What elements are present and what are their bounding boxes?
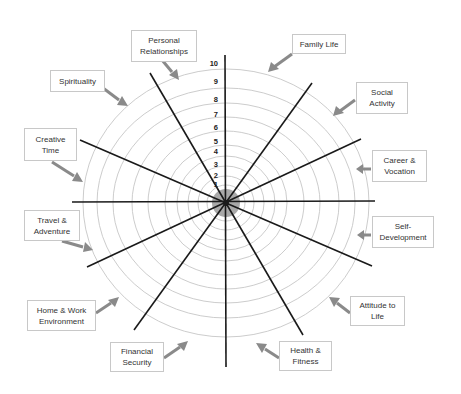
label-career-vocation: Career & Vocation	[372, 150, 427, 182]
label-self-development: Self- Development	[372, 216, 434, 248]
label-social-activity: Social Activity	[356, 82, 408, 114]
label-text: Social Activity	[369, 87, 394, 109]
label-text: Health & Fitness	[290, 345, 321, 367]
spoke-vertical	[225, 55, 226, 367]
scale-number-6: 6	[204, 123, 218, 132]
label-health-fitness: Health & Fitness	[279, 341, 332, 371]
spoke-ur-steep	[134, 83, 312, 330]
label-spirituality: Spirituality	[50, 70, 105, 92]
scale-number-5: 5	[204, 137, 218, 146]
label-text: Personal Relationships	[140, 35, 188, 57]
label-text: Creative Time	[36, 134, 66, 156]
label-text: Spirituality	[59, 76, 96, 87]
arrow-self-development-icon	[357, 230, 371, 240]
arrow-health-icon	[256, 343, 279, 358]
label-text: Home & Work Environment	[37, 305, 87, 327]
scale-number-7: 7	[204, 110, 218, 119]
scale-number-3: 3	[204, 160, 218, 169]
arrow-attitude-icon	[329, 297, 350, 313]
label-text: Career & Vocation	[383, 155, 415, 177]
scale-number-9: 9	[204, 77, 218, 86]
scale-number-4: 4	[204, 147, 218, 156]
label-financial-security: Financial Security	[110, 342, 164, 372]
arrow-spirituality-icon	[103, 88, 128, 106]
arrow-creative-icon	[52, 162, 83, 182]
label-text: Financial Security	[121, 346, 153, 368]
arrow-family-life-icon	[268, 54, 292, 72]
label-family-life: Family Life	[292, 34, 346, 54]
label-creative-time: Creative Time	[24, 128, 77, 161]
arrow-travel-icon	[62, 241, 93, 252]
label-home-work-environment: Home & Work Environment	[27, 300, 96, 331]
arrow-social-activity-icon	[333, 100, 355, 116]
label-text: Travel & Adventure	[34, 215, 70, 237]
scale-number-2: 2	[204, 171, 218, 180]
scale-number-1: 1	[204, 180, 218, 189]
arrow-home-work-icon	[96, 297, 119, 313]
center-dot	[223, 200, 229, 206]
label-travel-adventure: Travel & Adventure	[24, 210, 80, 241]
arrow-financial-icon	[164, 341, 188, 358]
wheel-of-life-diagram	[0, 0, 461, 394]
scale-number-8: 8	[204, 95, 218, 104]
label-text: Family Life	[300, 39, 339, 50]
label-personal-relationships: Personal Relationships	[131, 30, 197, 62]
label-text: Attitude to Life	[359, 300, 395, 322]
label-attitude-to-life: Attitude to Life	[350, 296, 405, 326]
arrow-personal-relationships-icon	[162, 60, 179, 80]
scale-number-10: 10	[204, 59, 218, 68]
label-text: Self- Development	[379, 221, 426, 243]
